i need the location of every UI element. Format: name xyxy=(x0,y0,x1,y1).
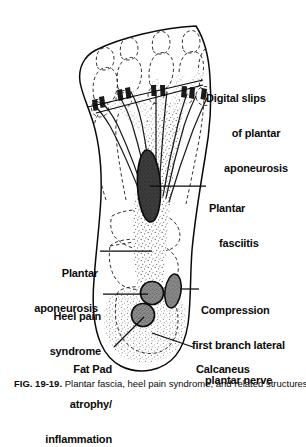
label-line: Digital slips xyxy=(206,93,306,105)
label-line: Plantar xyxy=(209,203,299,215)
label-line: inflammation xyxy=(8,434,112,446)
label-line: aponeurosis xyxy=(206,163,306,175)
heel-pain-syndrome-marker xyxy=(141,282,164,305)
label-line: of plantar xyxy=(206,128,306,140)
label-line: Compression xyxy=(201,305,306,317)
label-plantar-fasciitis: Plantar fasciitis xyxy=(209,180,299,261)
figure-caption: FIG. 19-19. Plantar fascia, heel pain sy… xyxy=(14,379,306,389)
figure-caption-text: Plantar fascia, heel pain syndrome, and … xyxy=(65,379,306,389)
label-fat-pad-atrophy-inflammation: Fat Pad atrophy/ inflammation xyxy=(8,341,112,447)
label-digital-slips-of-plantar-aponeurosis: Digital slips of plantar aponeurosis xyxy=(206,70,306,186)
fat-pad-marker xyxy=(132,304,155,327)
label-line: Heel pain xyxy=(0,311,101,323)
label-line: Calcaneus xyxy=(196,364,276,376)
label-line: fasciitis xyxy=(209,238,299,250)
label-line: Fat Pad xyxy=(8,364,112,376)
label-line: Plantar xyxy=(0,268,98,280)
label-line: atrophy/ xyxy=(8,399,112,411)
figure-number: FIG. 19-19. xyxy=(14,379,62,389)
